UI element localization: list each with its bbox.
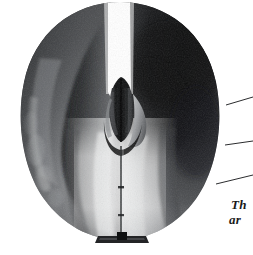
caption-line-1: Th	[231, 198, 247, 211]
figure-photograph: Th ar	[0, 0, 253, 255]
caption-line-2: ar	[229, 213, 241, 226]
figure-image	[0, 0, 253, 255]
